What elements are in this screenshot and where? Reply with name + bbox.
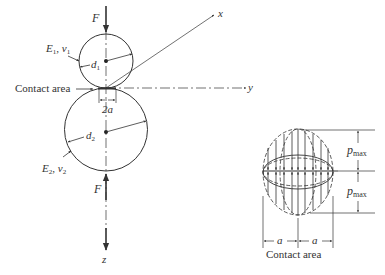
- y-axis-label: y: [247, 81, 253, 93]
- x-axis-label: x: [217, 7, 223, 19]
- left-figure: [63, 6, 246, 250]
- force-bottom-label: F: [93, 182, 102, 196]
- pressure-arrows: [268, 129, 328, 215]
- right-figure: [263, 129, 375, 248]
- d2-radius-arrow: [106, 121, 146, 132]
- e2-pointer: [63, 151, 71, 157]
- e1-pointer: [68, 56, 79, 61]
- e2-nu2-label: E2, ν2: [41, 162, 67, 176]
- d1-radius-arrow: [106, 54, 132, 61]
- left-labels: F F z y x E1, ν1 E2, ν2 d1 d2 Contact ar…: [15, 7, 253, 265]
- d1-label: d1: [91, 58, 101, 72]
- a-left-label: a: [277, 234, 283, 246]
- e1-nu1-label: E1, ν1: [45, 42, 71, 56]
- contact-stress-diagram: F F z y x E1, ν1 E2, ν2 d1 d2 Contact ar…: [0, 0, 385, 275]
- d2-label: d2: [86, 129, 96, 143]
- z-axis-label: z: [101, 253, 107, 265]
- a-right-label: a: [312, 234, 318, 246]
- contact-area-label: Contact area: [15, 82, 70, 94]
- right-labels: pmax pmax a a Contact area: [266, 143, 367, 260]
- x-axis: [106, 15, 214, 88]
- d2-left-arrow: [68, 137, 84, 142]
- d1-left-arrow: [80, 65, 90, 67]
- pmax-top-label: pmax: [346, 143, 367, 158]
- 2a-label: 2a: [102, 103, 114, 115]
- pmax-bottom-label: pmax: [346, 184, 367, 199]
- contact-area-caption: Contact area: [266, 248, 321, 260]
- force-top-label: F: [91, 11, 100, 25]
